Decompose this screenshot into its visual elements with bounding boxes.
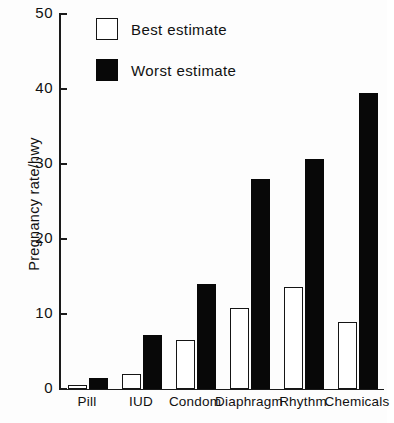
chart-legend: Best estimateWorst estimate xyxy=(96,14,236,96)
y-axis-tick-label: 30 xyxy=(19,154,53,171)
bar-worst xyxy=(359,93,378,389)
bar-worst xyxy=(251,179,270,389)
y-axis-tick-label: 0 xyxy=(19,379,53,396)
bar-group xyxy=(338,14,378,389)
legend-swatch-open-square xyxy=(96,18,118,40)
y-axis-tick-label: 40 xyxy=(19,79,53,96)
bar-best xyxy=(68,385,87,389)
y-axis-tick-label: 20 xyxy=(19,229,53,246)
y-axis-title: Pregnancy rate/hwy xyxy=(26,74,42,334)
legend-label: Best estimate xyxy=(131,21,227,38)
y-axis-tick-label: 10 xyxy=(19,304,53,321)
bar-best xyxy=(176,340,195,389)
y-axis-tick-label: 50 xyxy=(19,4,53,21)
legend-item: Best estimate xyxy=(96,14,236,44)
bar-best xyxy=(230,308,249,389)
bar-worst xyxy=(143,335,162,389)
x-axis-label-chemicals: Chemicals xyxy=(320,394,394,409)
bar-worst xyxy=(89,378,108,389)
bar-best xyxy=(122,374,141,389)
legend-swatch-filled-square xyxy=(96,59,118,81)
bar-best xyxy=(338,322,357,390)
bar-best xyxy=(284,287,303,389)
legend-label: Worst estimate xyxy=(131,62,236,79)
bar-worst xyxy=(305,159,324,389)
bar-worst xyxy=(197,284,216,389)
bar-group xyxy=(284,14,324,389)
legend-item: Worst estimate xyxy=(96,55,236,85)
